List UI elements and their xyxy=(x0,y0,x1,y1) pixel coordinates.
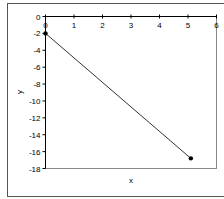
x-tick-label: 5 xyxy=(186,21,191,30)
y-tick-label: -14 xyxy=(29,131,41,140)
data-point-marker xyxy=(189,156,193,160)
plot-area xyxy=(46,17,217,169)
y-tick-label: -12 xyxy=(29,114,41,123)
y-tick-label: -16 xyxy=(29,148,41,157)
y-tick-label: -10 xyxy=(29,97,41,106)
y-tick-label: -18 xyxy=(29,165,41,174)
chart: 0123456 0-2-4-6-8-10-12-14-16-18 x y xyxy=(0,0,224,199)
x-tick-label: 2 xyxy=(100,21,105,30)
y-tick-label: -6 xyxy=(33,63,41,72)
y-tick-label: -2 xyxy=(33,29,41,38)
x-tick-label: 6 xyxy=(214,21,219,30)
y-tick-label: -4 xyxy=(33,46,41,55)
y-tick-label: -8 xyxy=(33,80,41,89)
x-tick-label: 1 xyxy=(72,21,77,30)
y-axis-label: y xyxy=(15,90,24,94)
x-axis-label: x xyxy=(129,176,133,185)
x-tick-label: 4 xyxy=(157,21,162,30)
x-tick-label: 3 xyxy=(129,21,134,30)
y-tick-label: 0 xyxy=(36,13,41,22)
data-point-marker xyxy=(43,31,47,35)
